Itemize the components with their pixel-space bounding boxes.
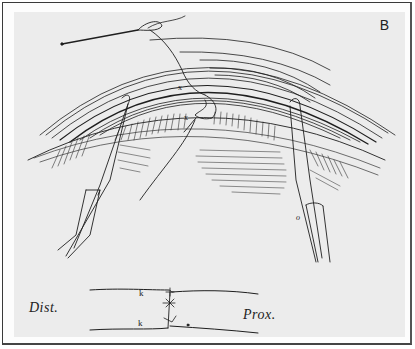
anastomosis-schematic [90,288,258,333]
tissue-edge [140,120,195,200]
right-retractor [290,99,330,262]
label-proximal: Prox. [243,307,276,323]
tissue-arcs [40,38,395,144]
mark-o: o [296,213,300,222]
schematic-mark-k-1: k [139,288,144,298]
mark-x-2: x [184,113,188,122]
label-distal: Dist. [29,300,58,316]
schematic-mark-k-2: k [138,318,143,328]
mark-x-1: x [178,83,182,92]
needle-icon [61,16,205,95]
left-retractor [58,95,130,258]
surgical-illustration: x x o k k [0,0,415,349]
